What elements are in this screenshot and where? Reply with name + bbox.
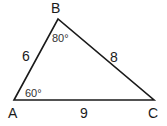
triangle-diagram: B A C 6 8 9 80° 60° [0,0,167,126]
angle-label-a: 60° [25,87,42,99]
side-label-bc: 8 [110,49,118,65]
side-label-ab: 6 [22,48,30,64]
angle-label-b: 80° [52,32,69,44]
side-label-ac: 9 [80,105,88,121]
vertex-label-b: B [51,0,60,16]
vertex-label-a: A [8,105,18,121]
vertex-label-c: C [148,105,158,121]
